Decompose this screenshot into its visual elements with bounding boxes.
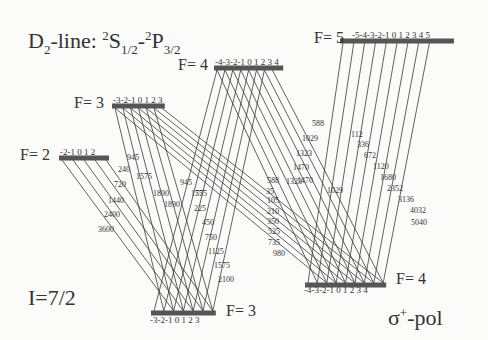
transition-strength-label: 210 [267,207,279,216]
transition-line [327,43,365,283]
transition-strength-label: 588 [312,119,324,128]
transition-strength-label: 980 [273,249,285,258]
transition-strength-label: 1323 [296,149,312,158]
transition-strength-label: 75 [195,189,203,198]
transition-strength-label: 4032 [410,206,426,215]
transition-strength-label: 112 [351,130,363,139]
polarization-label: σ+-pol [388,305,443,331]
transition-strength-label: 2400 [104,210,120,219]
transition-strength-label: 450 [202,218,214,227]
m-labels-upper-f5: -5-4-3-2-1 0 1 2 3 4 5 [352,30,430,40]
transition-strength-label: 3136 [398,195,414,204]
transition-strength-label: 2100 [218,275,234,284]
transition-strength-label: 1440 [108,196,124,205]
level-label-lower-f3: F= 3 [226,302,256,320]
transition-strength-label: 1323 [286,177,302,186]
transition-strength-label: 945 [180,178,192,187]
transition-strength-label: 1890 [153,189,169,198]
level-label-upper-f3: F= 3 [74,94,104,112]
transition-strength-label: 525 [268,227,280,236]
m-labels-upper-f3: -3-2-1 0 1 2 3 [113,95,163,105]
level-label-upper-f5: F= 5 [314,29,344,47]
transition-strength-label: 350 [267,217,279,226]
transition-strength-label: 1125 [208,247,224,256]
transition-strength-label: 945 [127,153,139,162]
transition-line [383,43,429,283]
m-labels-upper-f2: -2-1 0 1 2 [60,147,95,157]
transition-strength-label: 2352 [387,184,403,193]
level-label-lower-f4: F= 4 [396,270,426,288]
transition-strength-label: 672 [364,151,376,160]
transition-line [115,108,327,283]
transition-strength-label: 1680 [380,173,396,182]
transition-line [317,43,353,283]
m-labels-upper-f4: -4-3-2-1 0 1 2 3 4 [215,57,279,67]
transition-strength-label: 1470 [293,163,309,172]
level-label-upper-f2: F= 2 [20,146,50,164]
transition-strength-label: 1890 [164,200,180,209]
transition-strength-label: 1120 [373,162,389,171]
transition-line [115,108,164,311]
transition-strength-label: 35 [266,187,274,196]
transition-strength-label: 750 [205,233,217,242]
transition-strength-label: 1029 [302,134,318,143]
transition-strength-label: 105 [267,196,279,205]
transition-strength-label: 720 [114,180,126,189]
transition-strength-label: 588 [267,176,279,185]
level-label-upper-f4: F= 4 [178,56,208,74]
transition-strength-label: 3600 [98,225,114,234]
transition-strength-label: 1029 [327,186,343,195]
m-labels-lower-f3: -3-2-1 0 1 2 3 [150,315,200,325]
hyperfine-transition-diagram: 2407201440240036009451575189018901575945… [0,0,488,340]
transition-strength-label: 225 [194,204,206,213]
m-labels-lower-f4: -4-3-2-1 0 1 2 3 4 [304,285,368,295]
nuclear-spin-label: I=7/2 [28,285,76,311]
transition-line [336,43,375,283]
transition-strength-label: 5040 [411,218,427,227]
transition-strength-label: 735 [268,238,280,247]
transition-strength-label: 1575 [136,172,152,181]
transition-strength-label: 240 [118,165,130,174]
diagram-title: D2-line: 2S1/2-2P3/2 [28,28,180,58]
transition-strength-label: 336 [357,140,369,149]
transition-strength-label: 1575 [214,261,230,270]
transition-line [84,160,193,311]
